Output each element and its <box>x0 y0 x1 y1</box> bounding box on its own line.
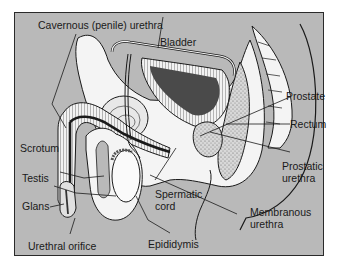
label-membranous-urethra-2: urethra <box>250 218 283 230</box>
label-cavernous-urethra: Cavernous (penile) urethra <box>38 19 163 31</box>
label-testis: Testis <box>22 172 49 184</box>
label-prostatic-urethra-2: urethra <box>282 172 315 184</box>
label-spermatic-cord-2: cord <box>155 200 175 212</box>
glans <box>60 182 76 218</box>
label-glans: Glans <box>22 200 49 212</box>
label-rectum: Rectum <box>290 118 326 130</box>
label-spermatic-cord-1: Spermatic <box>155 188 202 200</box>
label-urethral-orifice: Urethral orifice <box>28 240 96 252</box>
prostate <box>193 122 222 157</box>
testis <box>112 150 140 202</box>
label-prostate: Prostate <box>286 90 325 102</box>
label-membranous-urethra-1: Membranous <box>250 206 311 218</box>
label-bladder: Bladder <box>160 36 196 48</box>
label-scrotum: Scrotum <box>20 142 59 154</box>
label-epididymis: Epididymis <box>148 238 199 250</box>
label-prostatic-urethra-1: Prostatic <box>282 160 323 172</box>
